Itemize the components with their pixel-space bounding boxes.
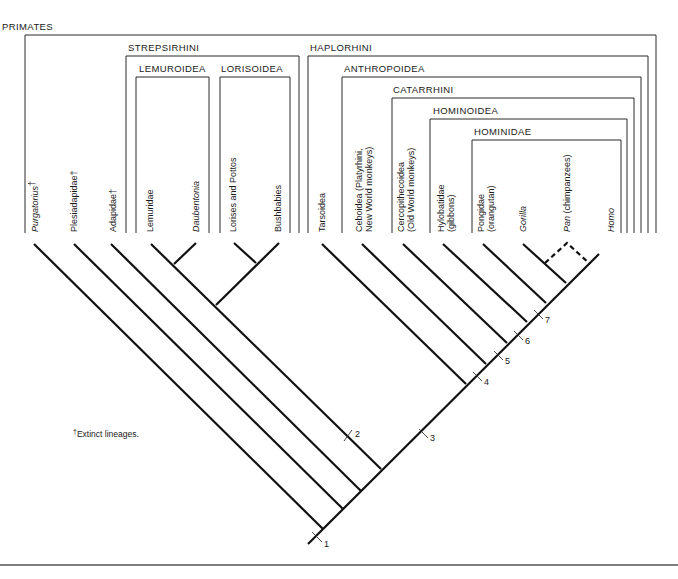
taxon-cercopithecoidea-line1: Cercopithecoidea: [396, 162, 406, 232]
marker-label-7: 7: [545, 315, 550, 325]
taxon-adapidae: Adapidae†: [108, 189, 118, 232]
marker-label-4: 4: [484, 377, 489, 387]
branch-plesiadapidae: [74, 244, 343, 509]
group-label-primates: PRIMATES: [2, 21, 53, 32]
taxon-gorilla: Gorilla: [518, 206, 528, 232]
group-label-lemuroidea: LEMUROIDEA: [139, 63, 206, 74]
branch-adapidae: [111, 244, 361, 491]
branch-strepsirhini: [151, 244, 381, 469]
taxon-cercopithecoidea-line2: (Old World monkeys): [406, 148, 416, 232]
group-label-catarrhini: CATARRHINI: [393, 84, 454, 95]
marker-label-1: 1: [324, 539, 329, 549]
taxon-lorises-and-pottos: Lorises and Pottos: [228, 157, 238, 232]
taxon-purgatorius: Purgatorius†: [27, 181, 40, 232]
branch-daubentonia: [174, 243, 196, 264]
group-label-lorisoidea: LORISOIDEA: [221, 63, 283, 74]
taxon-bushbabies: Bushbabies: [273, 184, 283, 232]
footnote: †Extinct lineages.: [73, 428, 139, 439]
box-catarrhini: [392, 98, 634, 233]
primate-cladogram: PRIMATES STREPSIRHINI LEMUROIDEA LORISOI…: [0, 0, 678, 579]
group-boxes: PRIMATES STREPSIRHINI LEMUROIDEA LORISOI…: [2, 21, 656, 233]
taxon-lemuridae: Lemuridae: [145, 189, 155, 232]
branch-tarsoidea: [322, 244, 466, 384]
marker-label-2: 2: [355, 429, 360, 439]
taxon-labels: Purgatorius† Plesiadapidae† Adapidae† Le…: [27, 147, 616, 232]
taxon-hylobatidae-line1: Hylobatidae: [436, 184, 446, 232]
taxon-daubentonia: Daubentonia: [191, 181, 201, 232]
marker-label-5: 5: [505, 356, 510, 366]
tree-branches: [34, 243, 599, 544]
taxon-plesiadapidae: Plesiadapidae†: [69, 170, 79, 232]
branch-lorisoidea-stem: [216, 243, 279, 305]
group-label-haplorhini: HAPLORHINI: [310, 42, 372, 53]
taxon-ceboidea-line2: New World monkeys): [364, 147, 374, 232]
branch-pongidae: [483, 244, 546, 303]
main-spine: [308, 254, 599, 544]
marker-label-3: 3: [430, 433, 435, 443]
branch-hylobatidae: [443, 244, 527, 322]
markers: 1 2 3 4 5 6 7: [312, 310, 550, 549]
group-label-anthropoidea: ANTHROPOIDEA: [344, 63, 425, 74]
taxon-tarsoidea: Tarsoidea: [317, 193, 327, 232]
group-label-hominidae: HOMINIDAE: [474, 126, 531, 137]
taxon-pan: Pan (chimpanzees): [562, 154, 572, 232]
taxon-hylobatidae-line2: (gibbons): [446, 194, 456, 232]
group-label-strepsirhini: STREPSIRHINI: [128, 42, 199, 53]
branch-cercopithecoidea: [403, 244, 507, 343]
branch-lorises: [234, 243, 256, 263]
taxon-pongidae-line2: (orangutan): [486, 185, 496, 232]
taxon-pongidae-line1: Pongidae: [476, 194, 486, 232]
taxon-ceboidea-line1: Ceboidea (Platyrhini,: [354, 148, 364, 232]
marker-label-6: 6: [525, 336, 530, 346]
group-label-hominoidea: HOMINOIDEA: [433, 105, 498, 116]
taxon-homo: Homo: [606, 208, 616, 232]
branch-pan-dashed: [545, 243, 590, 264]
branch-purgatorius: [34, 244, 323, 529]
